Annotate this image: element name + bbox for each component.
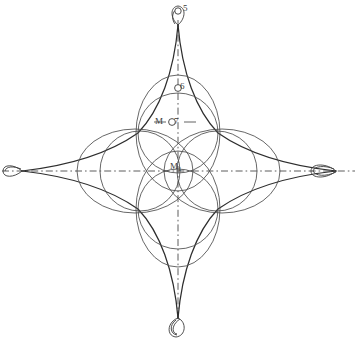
astroid-arc-se	[178, 171, 336, 318]
figure-canvas: 5 6 M 7 M 1	[0, 0, 357, 338]
label-center-m: M	[170, 162, 178, 171]
label-mid-m: M	[155, 117, 163, 126]
astroid-arc-nw	[22, 25, 178, 171]
astroid-arc-ne	[178, 25, 336, 171]
label-upper-circle: 6	[180, 82, 185, 91]
loop-bottom	[169, 318, 184, 337]
label-top-cusp: 5	[183, 4, 188, 13]
marker-5-icon	[175, 8, 181, 14]
cusp-loops	[3, 6, 336, 337]
astroid-arc-sw	[22, 171, 178, 318]
label-center-subscript: 1	[178, 166, 182, 173]
label-mid-number: 7	[174, 117, 179, 126]
